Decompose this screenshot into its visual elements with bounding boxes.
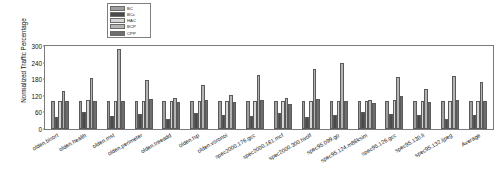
- legend-item: BCc: [110, 11, 148, 17]
- bar: [93, 101, 97, 129]
- x-axis-tick-label: olden.treeadd: [139, 132, 172, 154]
- bar: [260, 100, 264, 129]
- bar-group: [381, 46, 409, 129]
- legend-item: HAC: [110, 18, 148, 24]
- bar-group: [297, 46, 325, 129]
- x-axis-tick-label: olden.mst: [92, 132, 116, 149]
- legend-item: BCP: [110, 24, 148, 30]
- legend-swatch-icon: [110, 18, 125, 23]
- bar-group: [158, 46, 186, 129]
- x-axis-tick-label: olden.bisort: [31, 132, 59, 152]
- legend-item-label: BC: [127, 6, 133, 11]
- bar-group: [74, 46, 102, 129]
- chart-legend: BCBCcHACBCPCPP: [107, 3, 151, 38]
- legend-swatch-icon: [110, 31, 125, 36]
- bar-group: [130, 46, 158, 129]
- bar-group: [269, 46, 297, 129]
- bar: [316, 99, 320, 129]
- bar: [149, 99, 153, 129]
- bar: [344, 101, 348, 129]
- bar: [65, 101, 69, 129]
- bar: [121, 101, 125, 129]
- bar-group: [353, 46, 381, 129]
- bar: [483, 101, 487, 129]
- bar: [233, 102, 237, 129]
- legend-item: CPP: [110, 30, 148, 36]
- bar-group: [102, 46, 130, 129]
- bar-group: [241, 46, 269, 129]
- bar: [456, 100, 460, 129]
- plot-area: 060120180240300: [44, 45, 494, 130]
- bar: [400, 96, 404, 129]
- bar-groups: [45, 46, 493, 129]
- bar: [205, 100, 209, 129]
- legend-swatch-icon: [110, 12, 125, 17]
- legend-item-label: CPP: [127, 31, 136, 36]
- bar-group: [436, 46, 464, 129]
- bar-group: [464, 46, 492, 129]
- legend-swatch-icon: [110, 24, 125, 29]
- legend-swatch-icon: [110, 6, 125, 11]
- x-axis-labels: olden.bisortolden.healtholden.mstolden.p…: [44, 131, 494, 174]
- legend-item: BC: [110, 5, 148, 11]
- legend-item-label: HAC: [127, 18, 136, 23]
- bar-group: [185, 46, 213, 129]
- bar-group: [46, 46, 74, 129]
- x-axis-tick-label: olden.health: [58, 132, 87, 152]
- bar-group: [213, 46, 241, 129]
- legend-item-label: BCP: [127, 24, 136, 29]
- bar-group: [325, 46, 353, 129]
- bar: [428, 102, 432, 129]
- bar: [288, 104, 292, 129]
- bar: [177, 102, 181, 129]
- y-axis-label: Normalized Traffic Percentage: [20, 5, 27, 117]
- bar-group: [408, 46, 436, 129]
- x-axis-tick-label: Average: [460, 132, 481, 148]
- bar-chart-figure: BCBCcHACBCPCPP Normalized Traffic Percen…: [0, 0, 501, 174]
- bar: [372, 103, 376, 129]
- legend-item-label: BCc: [127, 12, 135, 17]
- x-axis-tick-label: olden.tsp: [177, 132, 200, 149]
